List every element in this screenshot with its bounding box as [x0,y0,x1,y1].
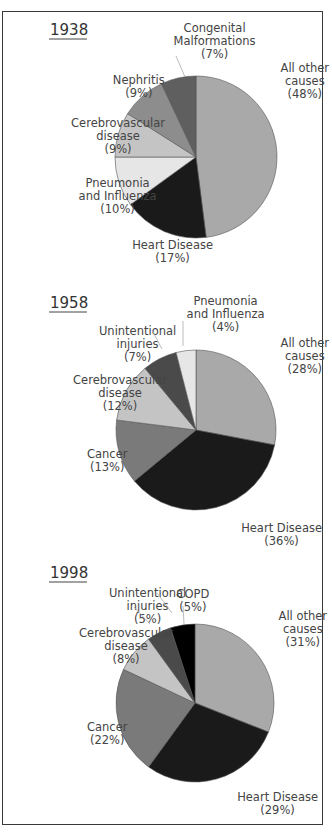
slice-label: Unintentionalinjuries(5%) [109,586,186,626]
pie-1938: 1938All othercauses(48%)Heart Disease(17… [49,21,329,265]
pie-charts: 1938All othercauses(48%)Heart Disease(17… [0,0,332,833]
pie-1998: 1998All othercauses(31%)Heart Disease(29… [49,564,327,817]
slice-label: Heart Disease(29%) [237,790,318,817]
year-title: 1998 [50,564,88,582]
slice-label: All othercauses(48%) [281,61,330,101]
pie-1958: 1958All othercauses(28%)Heart Disease(36… [49,294,329,548]
slice-label: Pneumoniaand Influenza(4%) [187,294,265,334]
slice-label: COPD(5%) [176,587,209,614]
slice-label: Heart Disease(36%) [241,521,322,548]
slice-label: CongenitalMalformations(7%) [174,21,256,61]
slice-label: All othercauses(31%) [279,609,328,649]
leader-line [176,56,185,77]
slice-label: All othercauses(28%) [281,336,330,376]
pie-slice [196,76,277,237]
slice-label: Cancer(13%) [87,447,128,474]
year-title: 1938 [50,21,88,39]
pie-slice [196,350,276,445]
slice-label: Cancer(22%) [87,720,128,747]
slice-label: Heart Disease(17%) [132,238,213,265]
year-title: 1958 [50,294,88,312]
